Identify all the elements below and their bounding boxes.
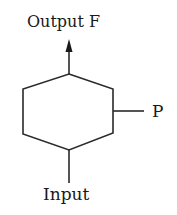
input-label: Input [43,186,89,203]
block-diagram: Output F P Input [0,0,177,215]
output-arrowhead-icon [66,39,73,52]
parameter-label: P [152,103,163,120]
diagram-canvas [0,0,177,215]
output-label: Output F [27,14,100,30]
hexagon-block [23,74,113,150]
